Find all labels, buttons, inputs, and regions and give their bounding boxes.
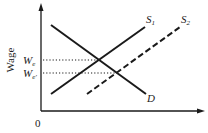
x-axis-arrow-icon [197,109,205,114]
s2-label: S2 [181,14,190,27]
s1-label: S1 [146,14,155,27]
y-axis-arrow-icon [39,3,44,11]
d-label: D [147,93,155,104]
y-axis-label: Wage [4,48,16,73]
wage-label-we-prime: We' [23,68,37,81]
origin-label: 0 [35,118,41,129]
